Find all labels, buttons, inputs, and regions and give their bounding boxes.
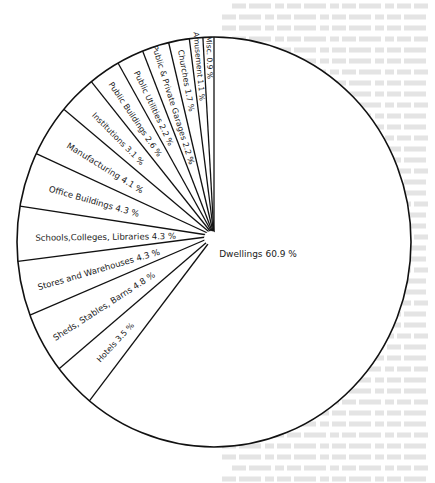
slice-label-dwellings: Dwellings 60.9 % bbox=[219, 249, 297, 259]
slice-label-misc: Misc. 0.9 % bbox=[204, 36, 214, 79]
slice-label-schools-colleges-libraries: Schools,Colleges, Libraries 4.3 % bbox=[35, 231, 176, 243]
pie-hub bbox=[204, 231, 218, 245]
pie-chart: Misc. 0.9 %Amusement 1.1 %Churches 1.7 %… bbox=[0, 0, 435, 483]
pie-chart-figure: Misc. 0.9 %Amusement 1.1 %Churches 1.7 %… bbox=[0, 0, 435, 483]
